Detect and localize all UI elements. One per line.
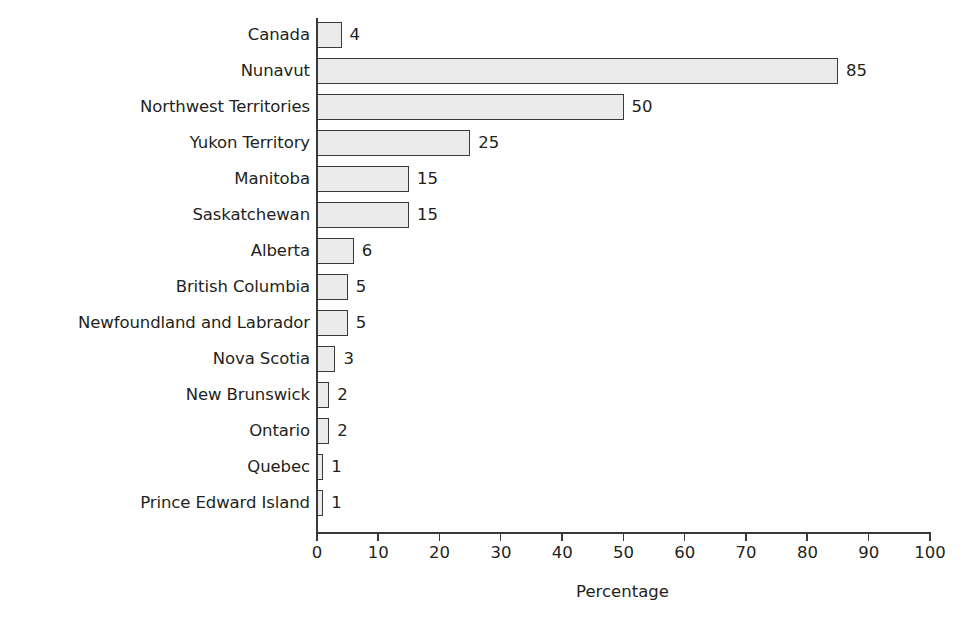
bar — [317, 166, 409, 192]
category-label: Quebec — [247, 449, 310, 485]
category-label: Ontario — [249, 413, 310, 449]
x-axis-tick-label: 80 — [777, 543, 837, 562]
bar-value-label: 6 — [362, 238, 373, 264]
x-axis-title: Percentage — [0, 582, 971, 601]
x-axis-tick — [377, 532, 379, 541]
x-axis-tick — [745, 532, 747, 541]
bar-value-label: 4 — [350, 22, 361, 48]
y-axis-line — [316, 18, 318, 533]
x-axis-tick — [929, 532, 931, 541]
bar-value-label: 1 — [331, 454, 342, 480]
bar-row: Canada4 — [0, 17, 971, 53]
bar-row: Nunavut85 — [0, 53, 971, 89]
bar-value-label: 15 — [417, 166, 438, 192]
category-label: New Brunswick — [186, 377, 310, 413]
category-label: Nova Scotia — [213, 341, 310, 377]
x-axis-tick-label: 50 — [594, 543, 654, 562]
bar-value-label: 15 — [417, 202, 438, 228]
plot-area: Canada4Nunavut85Northwest Territories50Y… — [0, 0, 971, 637]
x-axis-tick — [500, 532, 502, 541]
bar — [317, 202, 409, 228]
x-axis-tick — [439, 532, 441, 541]
bar — [317, 22, 342, 48]
category-label: Manitoba — [234, 161, 310, 197]
bar — [317, 382, 329, 408]
x-axis-tick — [684, 532, 686, 541]
x-axis-tick-label: 60 — [655, 543, 715, 562]
bar — [317, 274, 348, 300]
category-label: British Columbia — [176, 269, 310, 305]
bar-row: Saskatchewan15 — [0, 197, 971, 233]
category-label: Prince Edward Island — [140, 485, 310, 521]
x-axis-tick-label: 100 — [900, 543, 960, 562]
x-axis-tick-label: 30 — [471, 543, 531, 562]
bar-value-label: 3 — [343, 346, 354, 372]
x-axis-tick-label: 0 — [287, 543, 347, 562]
bar-row: Manitoba15 — [0, 161, 971, 197]
bar — [317, 346, 335, 372]
category-label: Nunavut — [241, 53, 310, 89]
bar-value-label: 1 — [331, 490, 342, 516]
x-axis-tick-label: 20 — [410, 543, 470, 562]
bar-row: Nova Scotia3 — [0, 341, 971, 377]
bar-row: British Columbia5 — [0, 269, 971, 305]
bar-row: Alberta6 — [0, 233, 971, 269]
bar — [317, 418, 329, 444]
x-axis-tick-label: 10 — [348, 543, 408, 562]
category-label: Saskatchewan — [192, 197, 310, 233]
category-label: Canada — [248, 17, 310, 53]
bar-chart: Canada4Nunavut85Northwest Territories50Y… — [0, 0, 971, 637]
bar-row: Newfoundland and Labrador5 — [0, 305, 971, 341]
x-axis-tick — [316, 532, 318, 541]
x-axis-tick-label: 40 — [532, 543, 592, 562]
bar-row: Northwest Territories50 — [0, 89, 971, 125]
bar — [317, 310, 348, 336]
category-label: Alberta — [251, 233, 310, 269]
bar — [317, 94, 624, 120]
x-axis-tick — [561, 532, 563, 541]
bar-row: Quebec1 — [0, 449, 971, 485]
bar-value-label: 2 — [337, 418, 348, 444]
bar-value-label: 50 — [632, 94, 653, 120]
bar — [317, 454, 323, 480]
x-axis-tick-label: 90 — [839, 543, 899, 562]
bar-row: Prince Edward Island1 — [0, 485, 971, 521]
bar-value-label: 25 — [478, 130, 499, 156]
category-label: Yukon Territory — [190, 125, 310, 161]
x-axis-title-text: Percentage — [576, 582, 669, 601]
x-axis-tick — [868, 532, 870, 541]
bar-value-label: 5 — [356, 310, 367, 336]
bar — [317, 490, 323, 516]
bar-row: Yukon Territory25 — [0, 125, 971, 161]
bar-value-label: 85 — [846, 58, 867, 84]
x-axis-tick — [806, 532, 808, 541]
x-axis-tick — [623, 532, 625, 541]
bar-value-label: 5 — [356, 274, 367, 300]
bar — [317, 58, 838, 84]
bar-row: New Brunswick2 — [0, 377, 971, 413]
bar-value-label: 2 — [337, 382, 348, 408]
x-axis-tick-label: 70 — [716, 543, 776, 562]
category-label: Newfoundland and Labrador — [78, 305, 310, 341]
bar — [317, 130, 470, 156]
bar — [317, 238, 354, 264]
category-label: Northwest Territories — [140, 89, 310, 125]
bar-row: Ontario2 — [0, 413, 971, 449]
